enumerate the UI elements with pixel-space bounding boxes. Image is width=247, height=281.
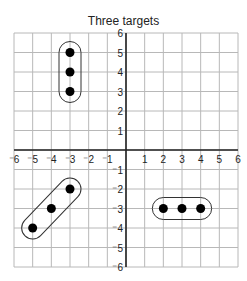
data-point	[47, 204, 56, 213]
data-point	[66, 48, 75, 57]
data-point	[178, 204, 187, 213]
data-point	[196, 204, 205, 213]
data-point	[159, 204, 168, 213]
x-tick-label: 2	[161, 154, 167, 165]
y-tick-label: ⁻5	[112, 243, 123, 254]
x-tick-label: 1	[142, 154, 148, 165]
x-tick-label: 6	[235, 154, 241, 165]
y-tick-label: ⁻3	[112, 204, 123, 215]
x-tick-label: ⁻6	[9, 154, 20, 165]
x-tick-label: ⁻3	[65, 154, 76, 165]
x-tick-label: ⁻4	[46, 154, 57, 165]
x-tick-label: 3	[179, 154, 185, 165]
data-point	[28, 224, 37, 233]
y-tick-label: ⁻6	[112, 262, 123, 273]
x-tick-label: 5	[217, 154, 223, 165]
y-tick-label: ⁻1	[112, 165, 123, 176]
data-point	[66, 185, 75, 194]
y-tick-label: 1	[117, 126, 123, 137]
y-tick-label: ⁻2	[112, 184, 123, 195]
x-tick-label: 4	[198, 154, 204, 165]
data-point	[66, 68, 75, 77]
y-tick-label: 3	[117, 87, 123, 98]
y-tick-label: 5	[117, 48, 123, 59]
x-tick-label: ⁻1	[102, 154, 113, 165]
y-tick-label: 4	[117, 67, 123, 78]
y-tick-label: ⁻4	[112, 223, 123, 234]
y-tick-label: 2	[117, 106, 123, 117]
x-tick-label: ⁻5	[27, 154, 38, 165]
coordinate-grid-chart: ⁻6⁻5⁻4⁻3⁻2⁻1123456654321⁻1⁻2⁻3⁻4⁻5⁻6	[0, 0, 247, 281]
x-tick-label: ⁻2	[83, 154, 94, 165]
y-tick-label: 6	[117, 28, 123, 39]
data-point	[66, 87, 75, 96]
